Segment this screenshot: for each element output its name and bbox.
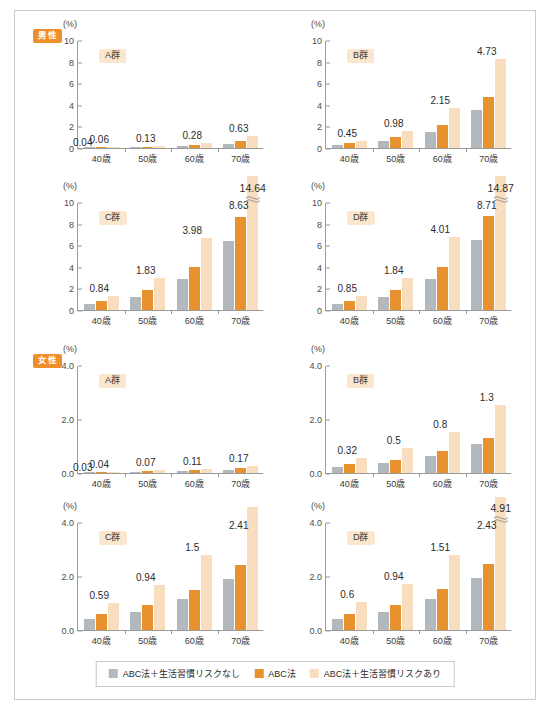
y-tick-mark-male-A-0 xyxy=(78,149,82,150)
bar-male-C-40歳-s0 xyxy=(84,304,95,310)
x-axis-label-female-B-0: 40歳 xyxy=(340,477,359,490)
value-label-male-D-1: 1.84 xyxy=(384,266,403,276)
bar-female-C-50歳-s1 xyxy=(142,605,153,630)
x-axis-label-female-C-2: 60歳 xyxy=(185,634,204,647)
bar-female-A-50歳-s2 xyxy=(154,470,165,473)
y-tick-mark-male-C-4 xyxy=(78,224,82,225)
y-tick-mark-male-A-1 xyxy=(78,127,82,128)
bar-male-B-70歳-s1 xyxy=(483,97,494,148)
value-label-female-A-2: 0.07 xyxy=(136,458,155,468)
bar-female-A-60歳-s0 xyxy=(177,471,188,473)
bar-female-A-70歳-s2 xyxy=(247,466,258,473)
y-tick-label-female-A-1: 2.0 xyxy=(61,415,78,425)
bar-female-B-50歳-s1 xyxy=(390,460,401,474)
value-label-female-C-0: 0.59 xyxy=(90,591,109,601)
bar-male-A-50歳-s0 xyxy=(130,147,141,148)
x-tick-mark-male-A-2 xyxy=(171,148,172,152)
bar-male-C-60歳-s0 xyxy=(177,279,188,310)
value-label-male-C-4: 14.64 xyxy=(240,183,266,194)
x-tick-mark-male-A-1 xyxy=(125,148,126,152)
bar-female-A-70歳-s0 xyxy=(223,470,234,473)
x-axis-label-female-D-3: 70歳 xyxy=(479,634,498,647)
legend-label-abc: ABC法 xyxy=(268,667,296,680)
plot-area-female-A: 0.02.04.040歳50歳60歳70歳0.030.040.070.110.1… xyxy=(77,366,263,474)
bar-female-C-60歳-s0 xyxy=(177,599,188,630)
x-tick-mark-female-B-1 xyxy=(373,473,374,477)
chart-panel-male-D: (%)D群024681040歳50歳60歳70歳0.851.844.018.71… xyxy=(285,181,531,339)
x-axis-label-male-D-1: 50歳 xyxy=(386,314,405,327)
legend-swatch-with_risk xyxy=(310,669,319,678)
bar-female-D-70歳-s1 xyxy=(483,564,494,630)
x-axis-label-male-D-3: 70歳 xyxy=(479,314,498,327)
x-tick-mark-female-C-3 xyxy=(218,630,219,634)
y-tick-label-male-B-1: 2 xyxy=(317,122,326,132)
bar-male-A-50歳-s1 xyxy=(142,147,153,148)
bar-male-C-70歳-s0 xyxy=(223,241,234,310)
x-axis-label-female-B-2: 60歳 xyxy=(433,477,452,490)
value-label-female-A-1: 0.04 xyxy=(90,460,109,470)
y-tick-mark-female-B-1 xyxy=(326,420,330,421)
bar-female-A-50歳-s1 xyxy=(142,471,153,473)
x-tick-mark-female-B-2 xyxy=(419,473,420,477)
value-label-female-B-3: 1.3 xyxy=(480,393,494,403)
bar-male-B-40歳-s1 xyxy=(344,143,355,148)
value-label-male-C-1: 1.83 xyxy=(136,266,155,276)
chart-panel-male-A: (%)A群024681040歳50歳60歳70歳0.040.060.130.28… xyxy=(37,19,283,177)
bar-male-A-60歳-s1 xyxy=(189,145,200,148)
value-label-female-C-2: 1.5 xyxy=(185,543,199,553)
x-tick-mark-male-D-2 xyxy=(419,310,420,314)
chart-panel-female-A: (%)A群0.02.04.040歳50歳60歳70歳0.030.040.070.… xyxy=(37,344,283,502)
y-axis-unit-male-D: (%) xyxy=(311,181,325,191)
y-tick-label-female-A-2: 4.0 xyxy=(61,361,78,371)
y-tick-mark-male-A-4 xyxy=(78,62,82,63)
x-axis-label-male-B-0: 40歳 xyxy=(340,152,359,165)
bar-female-B-50歳-s0 xyxy=(378,463,389,473)
bar-male-C-50歳-s1 xyxy=(142,290,153,310)
x-axis-label-male-C-3: 70歳 xyxy=(231,314,250,327)
bar-female-D-50歳-s2 xyxy=(402,584,413,630)
bar-female-D-40歳-s2 xyxy=(356,602,367,630)
bar-male-B-40歳-s2 xyxy=(356,141,367,148)
bar-male-D-40歳-s2 xyxy=(356,296,367,310)
value-label-female-C-1: 0.94 xyxy=(136,573,155,583)
y-tick-mark-male-D-5 xyxy=(326,203,330,204)
y-tick-label-male-C-4: 8 xyxy=(69,220,78,230)
y-tick-mark-male-D-1 xyxy=(326,289,330,290)
bar-female-C-70歳-s2 xyxy=(247,507,258,630)
bar-male-C-70歳-s1 xyxy=(235,217,246,310)
bar-male-A-60歳-s2 xyxy=(201,143,212,148)
bar-female-C-70歳-s1 xyxy=(235,565,246,630)
y-tick-label-male-D-5: 10 xyxy=(312,198,326,208)
y-tick-mark-male-D-0 xyxy=(326,311,330,312)
x-tick-mark-female-C-2 xyxy=(171,630,172,634)
plot-area-male-D: 024681040歳50歳60歳70歳0.851.844.018.7114.87 xyxy=(325,203,511,311)
axis-break-icon-female-D xyxy=(493,515,508,524)
x-tick-mark-female-D-2 xyxy=(419,630,420,634)
y-tick-mark-male-D-3 xyxy=(326,246,330,247)
x-axis-label-female-B-3: 70歳 xyxy=(479,477,498,490)
bar-female-D-50歳-s1 xyxy=(390,605,401,630)
value-label-female-B-1: 0.5 xyxy=(387,436,401,446)
x-tick-mark-female-A-2 xyxy=(171,473,172,477)
x-tick-mark-male-C-3 xyxy=(218,310,219,314)
value-label-male-D-2: 4.01 xyxy=(431,225,450,235)
chart-panel-female-D: (%)D群0.02.04.040歳50歳60歳70歳0.60.941.512.4… xyxy=(285,501,531,659)
axis-break-icon-male-C xyxy=(245,195,260,204)
y-tick-mark-male-A-3 xyxy=(78,84,82,85)
bar-male-A-60歳-s0 xyxy=(177,146,188,148)
plot-area-male-C: 024681040歳50歳60歳70歳0.841.833.988.6314.64 xyxy=(77,203,263,311)
value-label-male-A-1: 0.06 xyxy=(90,135,109,145)
x-tick-mark-male-D-3 xyxy=(466,310,467,314)
bar-male-A-70歳-s0 xyxy=(223,144,234,148)
x-axis-label-female-D-0: 40歳 xyxy=(340,634,359,647)
bar-female-D-60歳-s1 xyxy=(437,589,448,630)
x-axis-label-female-A-2: 60歳 xyxy=(185,477,204,490)
x-axis-label-male-C-2: 60歳 xyxy=(185,314,204,327)
bar-female-C-40歳-s2 xyxy=(108,603,119,630)
y-tick-label-male-A-1: 2 xyxy=(69,122,78,132)
y-axis-unit-female-C: (%) xyxy=(63,501,77,511)
bar-female-B-70歳-s2 xyxy=(495,405,506,473)
y-tick-label-female-C-1: 2.0 xyxy=(61,572,78,582)
y-tick-label-female-B-0: 0.0 xyxy=(309,469,326,479)
y-tick-mark-male-C-0 xyxy=(78,311,82,312)
